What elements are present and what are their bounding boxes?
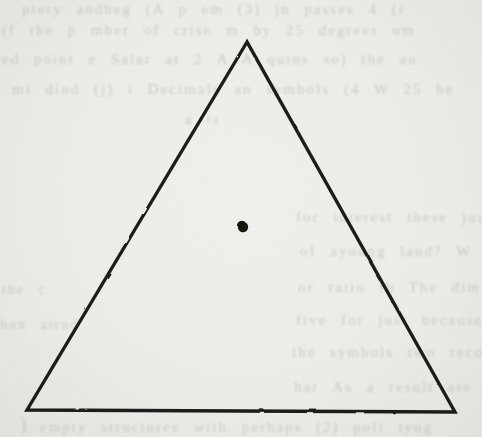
center-dot <box>238 222 248 232</box>
scanned-page: ptery andbeg (A p em (3) jn passes 4 (i(… <box>0 0 482 437</box>
triangle-figure <box>0 0 482 437</box>
